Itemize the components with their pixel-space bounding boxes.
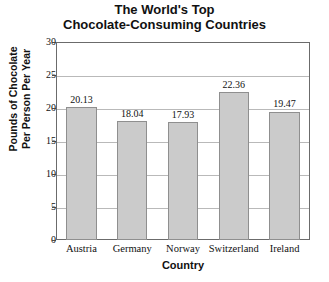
gridline [57,76,309,77]
x-axis-tick-labels: AustriaGermanyNorwaySwitzerlandIreland [56,243,310,259]
chart-title-line-2: Chocolate-Consuming Countries [0,17,329,32]
x-axis-tick-label: Ireland [248,243,321,255]
gridline [57,175,309,176]
plot-area [56,42,310,240]
chart-title-line-1: The World's Top [114,2,214,17]
gridline [57,142,309,143]
chart-title: The World's Top Chocolate-Consuming Coun… [0,2,329,32]
x-axis-title: Country [56,259,310,271]
y-axis: 051015202530 [28,42,56,240]
gridline [57,109,309,110]
y-axis-title-line-1: Pounds of Chocolate [7,13,20,185]
chart-page: The World's Top Chocolate-Consuming Coun… [0,0,329,282]
gridline [57,208,309,209]
